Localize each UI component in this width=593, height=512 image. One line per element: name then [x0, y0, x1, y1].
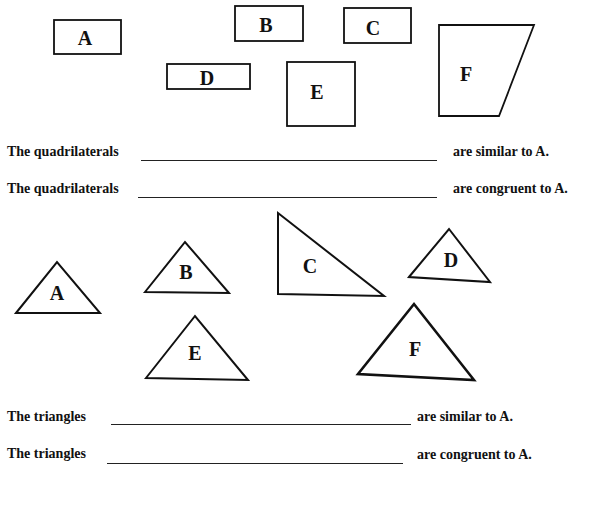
worksheet-page: A B C D E F The quadrilaterals are simil…: [0, 0, 593, 512]
tri-c-shape: [278, 213, 384, 296]
shapes-canvas: [0, 0, 593, 512]
quad-similar-answer-blank[interactable]: [141, 160, 437, 161]
quad-c-label: C: [366, 18, 380, 38]
quad-e-label: E: [310, 82, 323, 102]
tri-similar-answer-blank[interactable]: [111, 424, 411, 425]
quad-d-label: D: [200, 68, 214, 88]
tri-d-label: D: [444, 250, 458, 270]
quad-congruent-suffix: are congruent to A.: [453, 182, 568, 196]
tri-c-label: C: [303, 256, 317, 276]
tri-congruent-prefix: The triangles: [7, 447, 86, 461]
tri-similar-suffix: are similar to A.: [417, 410, 513, 424]
tri-f-label: F: [409, 339, 421, 359]
quad-a-label: A: [78, 28, 92, 48]
quad-congruent-answer-blank[interactable]: [138, 197, 437, 198]
tri-congruent-answer-blank[interactable]: [107, 463, 403, 464]
tri-e-label: E: [188, 343, 201, 363]
quad-similar-prefix: The quadrilaterals: [7, 145, 119, 159]
tri-b-label: B: [179, 262, 192, 282]
quad-f-shape: [439, 25, 534, 116]
quad-congruent-prefix: The quadrilaterals: [7, 182, 119, 196]
tri-similar-prefix: The triangles: [7, 410, 86, 424]
quad-similar-suffix: are similar to A.: [453, 145, 549, 159]
tri-congruent-suffix: are congruent to A.: [417, 448, 532, 462]
quad-f-label: F: [460, 64, 472, 84]
quad-b-label: B: [259, 15, 272, 35]
tri-a-label: A: [50, 283, 64, 303]
